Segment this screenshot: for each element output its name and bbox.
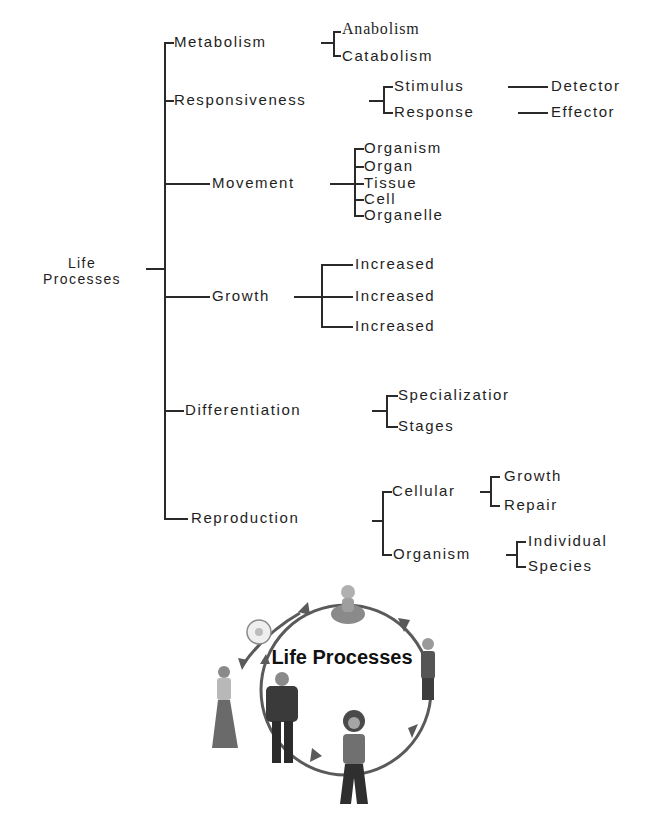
- leaf-increased-2: Increased: [355, 287, 435, 305]
- arrow-icon: [310, 748, 322, 762]
- teenager-icon: [340, 710, 368, 804]
- leaf-individual: Individual: [528, 532, 607, 550]
- child-icon: [421, 638, 435, 700]
- root-label-line2: Processes: [22, 271, 142, 287]
- branch-connector: [164, 100, 174, 102]
- connector: [382, 554, 392, 556]
- node-response: Response: [394, 103, 474, 121]
- leaf-increased-1: Increased: [355, 255, 435, 273]
- connector: [490, 505, 500, 507]
- leaf-growth: Growth: [504, 467, 562, 485]
- egg-cell-icon: [247, 620, 271, 644]
- branch-connector: [164, 518, 188, 520]
- leaf-anabolism: Anabolism: [342, 20, 419, 38]
- connector: [372, 520, 382, 522]
- node-stimulus: Stimulus: [394, 77, 464, 95]
- leaf-repair: Repair: [504, 496, 558, 514]
- connector: [372, 410, 386, 412]
- connector: [354, 199, 364, 201]
- leaf-effector: Effector: [551, 103, 615, 121]
- connector: [383, 86, 393, 88]
- adult-man-icon: [266, 672, 298, 763]
- leaf-specialization: Specializatior: [398, 386, 510, 404]
- branch-connector: [164, 296, 210, 298]
- node-cellular: Cellular: [392, 482, 456, 500]
- connector: [321, 42, 333, 44]
- bracket: [383, 86, 385, 113]
- branch-reproduction: Reproduction: [191, 509, 299, 527]
- connector: [508, 86, 548, 88]
- bracket: [490, 476, 492, 506]
- connector: [294, 296, 353, 298]
- leaf-organ: Organ: [364, 157, 414, 175]
- root-label-line1: Life: [22, 255, 142, 271]
- leaf-species: Species: [528, 557, 593, 575]
- connector: [330, 183, 354, 185]
- connector: [490, 476, 500, 478]
- adult-woman-icon: [212, 666, 238, 748]
- bracket: [386, 395, 388, 427]
- branch-metabolism: Metabolism: [174, 33, 267, 51]
- bracket: [333, 31, 335, 56]
- connector: [369, 100, 383, 102]
- connector: [386, 426, 398, 428]
- connector: [354, 166, 364, 168]
- connector: [518, 112, 548, 114]
- connector: [516, 541, 526, 543]
- connector: [386, 395, 398, 397]
- connector: [354, 148, 364, 150]
- connector: [516, 566, 526, 568]
- branch-movement: Movement: [212, 174, 295, 192]
- connector: [382, 491, 392, 493]
- connector: [480, 491, 490, 493]
- node-organism: Organism: [393, 545, 471, 563]
- illustration-title: Life Processes: [271, 646, 412, 668]
- root-node-label: Life Processes: [22, 255, 142, 287]
- branch-connector: [164, 183, 210, 185]
- root-connector: [146, 268, 164, 270]
- bracket: [321, 264, 323, 327]
- connector: [333, 31, 341, 33]
- arrow-icon: [238, 658, 248, 670]
- branch-connector: [164, 42, 174, 44]
- main-trunk-line: [164, 42, 166, 518]
- branch-connector: [164, 410, 184, 412]
- leaf-increased-3: Increased: [355, 317, 435, 335]
- bracket: [516, 541, 518, 567]
- connector: [321, 264, 353, 266]
- branch-growth: Growth: [212, 287, 270, 305]
- bracket: [382, 491, 384, 555]
- branch-responsiveness: Responsiveness: [174, 91, 306, 109]
- connector: [354, 215, 364, 217]
- connector: [321, 326, 353, 328]
- leaf-stages: Stages: [398, 417, 454, 435]
- connector: [354, 183, 364, 185]
- connector: [383, 112, 393, 114]
- branch-differentiation: Differentiation: [185, 401, 301, 419]
- leaf-detector: Detector: [551, 77, 621, 95]
- life-cycle-illustration: Life Processes: [190, 578, 470, 813]
- connector: [506, 554, 516, 556]
- bracket: [354, 148, 356, 216]
- leaf-organism: Organism: [364, 139, 442, 157]
- leaf-organelle: Organelle: [364, 206, 443, 224]
- connector: [333, 55, 341, 57]
- leaf-catabolism: Catabolism: [342, 47, 433, 65]
